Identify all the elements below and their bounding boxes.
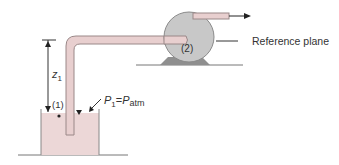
reference-plane-label: Reference plane <box>252 35 329 47</box>
point-1-dot <box>57 114 60 117</box>
point-2-label: (2) <box>181 43 193 54</box>
pressure-label: P1=Patm <box>104 94 145 109</box>
pressure-leader-line <box>91 99 101 109</box>
flow-arrow-icon <box>244 13 251 19</box>
point-1-label: (1) <box>52 99 64 110</box>
z1-label: z1 <box>51 68 63 83</box>
pump-suction-diagram: Reference plane (2) z1 (1) P1=Patm <box>0 0 339 165</box>
z1-top-arrow-icon <box>45 41 51 47</box>
z1-bottom-arrow-icon <box>45 106 51 112</box>
discharge-pipe <box>193 13 229 19</box>
